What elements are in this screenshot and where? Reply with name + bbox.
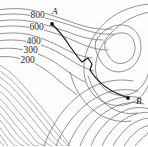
contour-line-200 <box>0 57 77 96</box>
contour-line-steep-2 <box>0 70 68 146</box>
contour-label-200: 200 <box>20 56 35 66</box>
contour-map-figure: 800 600 400 300 200 A B <box>0 0 148 146</box>
contour-line-steep-10 <box>0 125 17 146</box>
contour-line-ring-innermost <box>105 33 135 64</box>
contour-line-lens-8 <box>124 125 148 146</box>
contour-label-800: 800 <box>30 11 45 21</box>
contour-group-lower-left-steep <box>0 64 70 146</box>
contour-line-300 <box>0 48 85 82</box>
point-a-marker <box>50 22 54 26</box>
contour-line-upper-2 <box>0 33 92 58</box>
ridge-line <box>52 24 128 98</box>
contour-line-lens-9 <box>135 132 148 146</box>
point-label-b: B <box>136 97 142 106</box>
contour-group-central-lens <box>44 80 148 146</box>
contour-line-steep-11 <box>0 132 8 146</box>
contour-line-lens-7 <box>113 118 148 146</box>
contour-line-ring-inner <box>95 25 141 72</box>
point-label-a: A <box>52 7 58 16</box>
contour-line-600 <box>0 26 108 50</box>
contour-line-steep-7 <box>0 104 39 146</box>
point-b-marker <box>126 96 130 100</box>
contour-group-upper-left <box>0 9 114 95</box>
contour-label-600: 600 <box>29 23 44 33</box>
contour-line-lens-4 <box>80 103 144 147</box>
contour-plot-canvas <box>0 0 148 146</box>
contour-line-lens-6 <box>102 112 148 146</box>
